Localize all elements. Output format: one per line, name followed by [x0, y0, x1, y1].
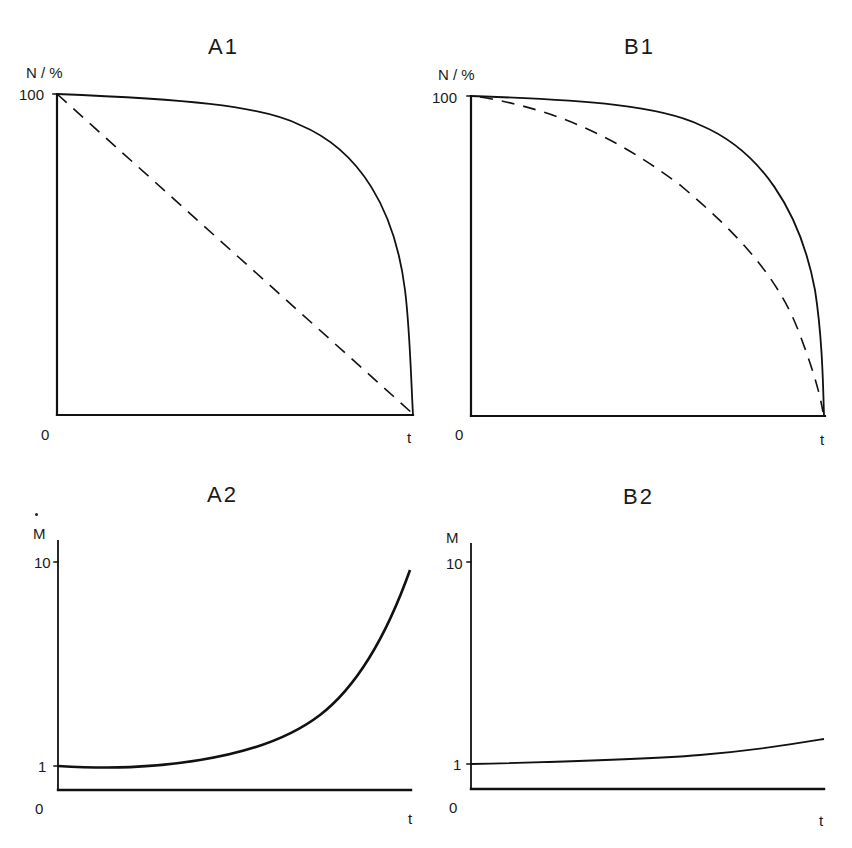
panel-b2-xlabel: t — [819, 813, 823, 828]
panel-b2-title: B2 — [623, 486, 654, 508]
panel-a1-title: A1 — [208, 36, 239, 58]
panel-a2-ylabel-dot — [35, 513, 38, 516]
panel-b1-ytick-100: 100 — [432, 90, 457, 105]
panel-a1-origin-label: 0 — [41, 427, 49, 442]
panel-b1-solid-curve — [471, 96, 824, 416]
panel-a1-ytick-100: 100 — [19, 87, 44, 102]
panel-b2-axes — [467, 544, 824, 789]
panel-b2-ylabel: M — [446, 530, 459, 545]
panel-a2-ytick-10: 10 — [34, 555, 51, 570]
panel-a2-ytick-1: 1 — [38, 759, 46, 774]
figure-canvas — [0, 0, 852, 848]
panel-a1-xlabel: t — [407, 430, 411, 445]
panel-b2-ytick-1: 1 — [453, 757, 461, 772]
panel-a1-ylabel: N / % — [26, 65, 63, 80]
panel-a2-title: A2 — [207, 484, 238, 506]
panel-a2-solid-curve — [58, 570, 410, 768]
panel-b1-ylabel: N / % — [438, 67, 475, 82]
panel-b1-axes — [467, 96, 825, 416]
panel-a1-dashed-line — [57, 94, 412, 413]
panel-b1-xlabel: t — [820, 432, 824, 447]
panel-b2-ytick-10: 10 — [446, 556, 463, 571]
panel-b2-solid-curve — [471, 739, 824, 764]
panel-b1-origin-label: 0 — [455, 427, 463, 442]
panel-a2-origin-label: 0 — [35, 801, 43, 816]
panel-a2-ylabel: M — [33, 526, 46, 541]
panel-b1-title: B1 — [624, 36, 655, 58]
panel-a2-xlabel: t — [408, 811, 412, 826]
panel-b2-origin-label: 0 — [449, 800, 457, 815]
panel-b1-dashed-curve — [480, 97, 823, 412]
panel-a1-axes — [53, 94, 413, 415]
